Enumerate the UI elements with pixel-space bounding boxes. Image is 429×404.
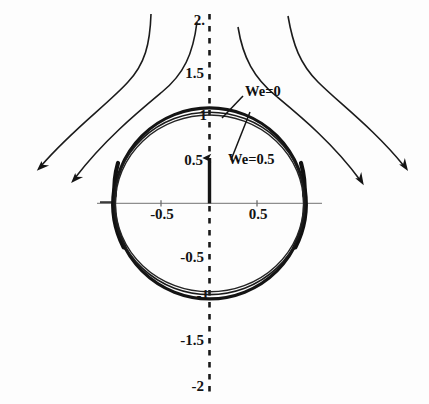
tick-label-y-neg-1p5: -1.5 xyxy=(180,332,204,348)
tick-label-y-1: 1 xyxy=(200,107,208,123)
figure-canvas: 2. 1.5 1 0.5 -0.5 -1 -1.5 -2 -0.5 0.5 We… xyxy=(0,0,429,404)
tick-label-x-0p5: 0.5 xyxy=(249,206,268,222)
tick-label-x-neg-0p5: -0.5 xyxy=(150,206,174,222)
tick-label-y-2: 2. xyxy=(194,12,206,28)
drop-shape-plot: 2. 1.5 1 0.5 -0.5 -1 -1.5 -2 -0.5 0.5 We… xyxy=(0,0,429,404)
tick-label-y-neg-1: -1 xyxy=(197,287,210,303)
streamline-right-outer xyxy=(288,16,404,166)
streamline-left-inner xyxy=(75,22,197,178)
tick-label-y-0p5: 0.5 xyxy=(184,152,203,168)
annotation-we-0: We=0 xyxy=(245,83,281,99)
annotation-we-0p5: We=0.5 xyxy=(228,151,275,167)
tick-label-y-1p5: 1.5 xyxy=(185,65,204,81)
tick-label-y-neg-0p5: -0.5 xyxy=(180,249,204,265)
tick-label-y-neg-2: -2 xyxy=(192,378,205,394)
streamlines-group xyxy=(41,14,404,180)
